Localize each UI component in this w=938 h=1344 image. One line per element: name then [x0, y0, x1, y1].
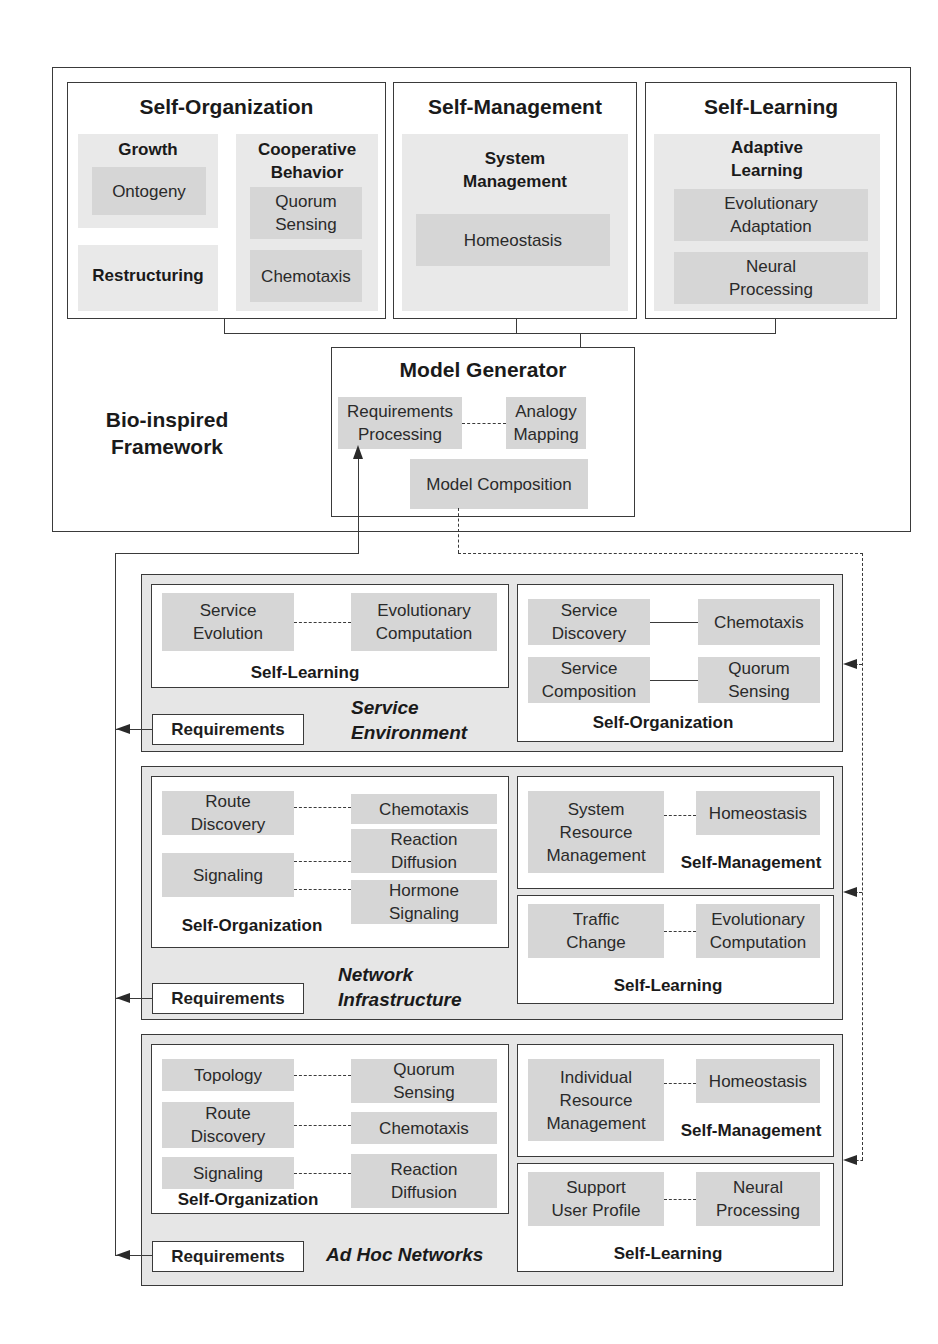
self-management-title: Self-Management: [668, 851, 834, 874]
restructuring-group: Restructuring: [78, 245, 218, 311]
reaction-diffusion-chip: Reaction Diffusion: [351, 1154, 497, 1208]
cooperative-behavior-group: Cooperative Behavior Quorum Sensing Chem…: [236, 134, 378, 311]
dashed-connector: [294, 622, 351, 623]
evolutionary-adaptation-chip: Evolutionary Adaptation: [674, 189, 868, 241]
neural-processing-chip: Neural Processing: [674, 252, 868, 304]
self-learning-title: Self-Learning: [518, 974, 818, 997]
model-composition-chip: Model Composition: [410, 459, 588, 509]
system-resource-management-chip: System Resource Management: [528, 791, 664, 873]
layer-name: Service Environment: [351, 695, 501, 745]
layer-name: Network Infrastructure: [338, 962, 498, 1012]
homeostasis-chip: Homeostasis: [696, 791, 820, 835]
solid-connector: [650, 680, 698, 681]
self-management-title: Self-Management: [668, 1119, 834, 1142]
self-organization-title: Self-Organization: [168, 1188, 328, 1211]
signaling-chip: Signaling: [162, 1157, 294, 1189]
arrow-left-icon: [116, 724, 130, 734]
neural-processing-chip: Neural Processing: [696, 1172, 820, 1226]
chemotaxis-chip: Chemotaxis: [351, 794, 497, 824]
service-discovery-chip: Service Discovery: [528, 599, 650, 645]
reaction-diffusion-chip: Reaction Diffusion: [351, 829, 497, 873]
arrow-left-icon: [116, 993, 130, 1003]
topology-chip: Topology: [162, 1059, 294, 1091]
self-learning-title: Self-Learning: [152, 661, 458, 684]
dashed-connector: [462, 423, 506, 424]
arrow-left-icon: [843, 659, 857, 669]
route-discovery-chip: Route Discovery: [162, 791, 294, 835]
growth-group: Growth Ontogeny: [78, 134, 218, 228]
self-learning-box: Self-Learning Adaptive Learning Evolutio…: [645, 82, 897, 319]
support-user-profile-chip: Support User Profile: [528, 1172, 664, 1226]
self-organization-box: Route Discovery Signaling Chemotaxis Rea…: [151, 776, 509, 948]
feedback-line: [115, 553, 116, 1256]
requirements-box: Requirements: [152, 983, 304, 1014]
adaptive-learning-group: Adaptive Learning Evolutionary Adaptatio…: [654, 134, 880, 311]
analogy-mapping-chip: Analogy Mapping: [506, 397, 586, 449]
chemotaxis-chip: Chemotaxis: [351, 1112, 497, 1144]
dashed-connector: [664, 1199, 696, 1200]
self-learning-box: Service Evolution Evolutionary Computati…: [151, 584, 509, 688]
service-composition-chip: Service Composition: [528, 657, 650, 703]
arrow-left-icon: [116, 1250, 130, 1260]
dashed-connector: [294, 1125, 351, 1126]
quorum-sensing-chip: Quorum Sensing: [351, 1059, 497, 1103]
service-evolution-chip: Service Evolution: [162, 593, 294, 651]
self-management-box: System Resource Management Homeostasis S…: [517, 776, 834, 889]
output-dashed-line: [458, 508, 459, 553]
quorum-sensing-chip: Quorum Sensing: [698, 657, 820, 703]
self-organization-box: Topology Quorum Sensing Route Discovery …: [151, 1044, 509, 1214]
arrow-left-icon: [843, 1155, 857, 1165]
connector-line: [224, 319, 225, 333]
cooperative-behavior-title: Cooperative Behavior: [236, 138, 378, 184]
self-organization-title: Self-Organization: [68, 95, 385, 119]
output-dashed-line: [862, 553, 863, 1160]
self-organization-box: Self-Organization Growth Ontogeny Restru…: [67, 82, 386, 319]
self-organization-title: Self-Organization: [172, 914, 332, 937]
dashed-connector: [294, 1075, 351, 1076]
system-management-group: System Management Homeostasis: [402, 134, 628, 311]
system-management-title: System Management: [402, 147, 628, 193]
layer-name: Ad Hoc Networks: [326, 1242, 516, 1267]
dashed-connector: [294, 861, 351, 862]
self-management-box: Individual Resource Management Homeostas…: [517, 1044, 834, 1157]
chemotaxis-chip: Chemotaxis: [698, 599, 820, 645]
dashed-connector: [664, 931, 696, 932]
dashed-connector: [294, 889, 351, 890]
output-dashed-line: [458, 553, 863, 554]
hormone-signaling-chip: Hormone Signaling: [351, 880, 497, 924]
self-learning-title: Self-Learning: [518, 1242, 818, 1265]
model-generator-title: Model Generator: [332, 358, 634, 382]
self-management-box: Self-Management System Management Homeos…: [393, 82, 637, 319]
requirements-box: Requirements: [152, 714, 304, 745]
feedback-line: [358, 450, 359, 553]
self-organization-title: Self-Organization: [518, 711, 808, 734]
solid-connector: [650, 622, 698, 623]
arrow-up-icon: [353, 445, 363, 459]
evolutionary-computation-chip: Evolutionary Computation: [696, 904, 820, 958]
self-learning-title: Self-Learning: [646, 95, 896, 119]
connector-line: [516, 319, 517, 333]
self-organization-box: Service Discovery Chemotaxis Service Com…: [517, 584, 834, 742]
connector-line: [224, 333, 776, 334]
model-generator-box: Model Generator Requirements Processing …: [331, 347, 635, 517]
requirements-processing-chip: Requirements Processing: [338, 397, 462, 449]
adaptive-learning-title: Adaptive Learning: [654, 136, 880, 182]
dashed-connector: [664, 815, 696, 816]
traffic-change-chip: Traffic Change: [528, 904, 664, 958]
signaling-chip: Signaling: [162, 853, 294, 897]
input-link: [856, 1160, 863, 1161]
connector-line: [775, 319, 776, 333]
quorum-sensing-chip: Quorum Sensing: [250, 187, 362, 239]
route-discovery-chip: Route Discovery: [162, 1102, 294, 1148]
homeostasis-chip: Homeostasis: [416, 214, 610, 266]
framework-label: Bio-inspired Framework: [92, 406, 242, 460]
dashed-connector: [294, 1173, 351, 1174]
dashed-connector: [664, 1083, 696, 1084]
feedback-line: [115, 553, 359, 554]
arrow-left-icon: [843, 887, 857, 897]
homeostasis-chip: Homeostasis: [696, 1059, 820, 1103]
self-learning-box: Support User Profile Neural Processing S…: [517, 1163, 834, 1272]
growth-title: Growth: [78, 138, 218, 161]
layer-service-environment: Service Evolution Evolutionary Computati…: [141, 574, 843, 752]
self-learning-box: Traffic Change Evolutionary Computation …: [517, 895, 834, 1004]
